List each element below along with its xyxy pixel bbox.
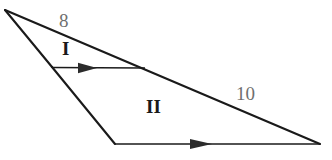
- geometry-figure: 8 10 I II: [0, 0, 332, 160]
- arrow-right-icon-upper: [78, 63, 97, 73]
- region-label-upper: I: [62, 39, 69, 58]
- segment-hypotenuse-long: [5, 10, 320, 144]
- segment-apex-to-left-mid: [5, 10, 52, 67]
- side-length-label-right: 10: [236, 84, 255, 103]
- segment-transversal-upper: [52, 68, 145, 69]
- figure-canvas: [0, 0, 332, 160]
- region-label-lower: II: [146, 97, 161, 116]
- arrow-right-icon-lower: [190, 139, 212, 149]
- segment-left-mid-to-bottom-left: [52, 67, 115, 144]
- side-length-label-top: 8: [59, 11, 69, 30]
